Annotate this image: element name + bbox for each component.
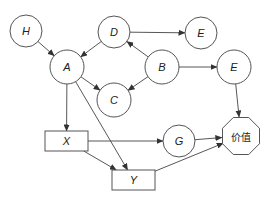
edge-g-to-v	[195, 138, 222, 140]
node-label-a: A	[63, 61, 70, 73]
edge-a-to-c	[81, 77, 100, 90]
edge-h-to-a	[38, 42, 54, 56]
edge-b-to-c	[128, 77, 148, 91]
edge-d-to-a	[81, 42, 102, 57]
diagram-svg	[0, 0, 269, 200]
node-label-e-right: E	[230, 61, 237, 73]
node-label-h: H	[22, 25, 30, 37]
influence-diagram: H D E A B E C X G 价值 Y	[0, 0, 269, 200]
edge-d-to-e1	[130, 32, 185, 33]
edge-e2-to-v	[236, 84, 239, 117]
node-label-b: B	[158, 61, 165, 73]
node-label-g: G	[175, 135, 184, 147]
node-label-x: X	[63, 135, 70, 147]
node-label-value: 价值	[231, 129, 251, 144]
edge-x-to-y	[84, 151, 117, 170]
nodes-layer	[10, 15, 260, 190]
edge-b-to-d	[127, 41, 148, 57]
node-label-y: Y	[130, 174, 137, 186]
node-label-e-top: E	[197, 27, 204, 39]
node-label-d: D	[110, 26, 118, 38]
node-label-c: C	[110, 94, 118, 106]
